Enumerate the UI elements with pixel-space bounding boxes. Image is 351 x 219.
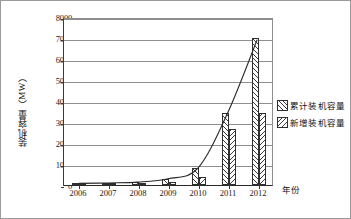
bar-2012-cumulative bbox=[252, 38, 259, 185]
x-tick-label-2007: 2007 bbox=[100, 188, 117, 198]
bar-2010-cumulative bbox=[192, 168, 199, 185]
bar-2007-cumulative bbox=[102, 183, 109, 185]
y-tick-mark bbox=[61, 61, 65, 62]
gridline bbox=[64, 82, 272, 83]
gridline bbox=[64, 103, 272, 104]
chart-figure: 装机容量（MW） 0100020003000400050006000700080… bbox=[0, 0, 351, 219]
plot-area bbox=[63, 18, 273, 186]
y-tick-mark bbox=[61, 103, 65, 104]
bar-2011-new bbox=[229, 129, 236, 185]
y-tick-mark bbox=[61, 166, 65, 167]
bar-2009-cumulative bbox=[162, 179, 169, 185]
x-tick-label-2010: 2010 bbox=[190, 188, 207, 198]
bar-2009-new bbox=[169, 182, 176, 185]
legend-swatch-cumulative-icon bbox=[277, 100, 288, 111]
bar-2006-new bbox=[79, 183, 86, 185]
bar-2011-cumulative bbox=[222, 113, 229, 185]
legend-label-new: 新增装机容量 bbox=[290, 116, 345, 128]
chart-legend: 累计装机容量 新增装机容量 bbox=[277, 99, 350, 133]
gridline bbox=[64, 166, 272, 167]
trend-line bbox=[64, 19, 272, 185]
x-axis-label: 年份 bbox=[282, 183, 300, 195]
bar-2008-new bbox=[139, 183, 146, 185]
x-tick-label-2012: 2012 bbox=[250, 188, 267, 198]
gridline bbox=[64, 124, 272, 125]
legend-item-new: 新增装机容量 bbox=[277, 116, 350, 128]
legend-swatch-new-icon bbox=[277, 117, 288, 128]
gridline bbox=[64, 19, 272, 20]
y-axis-label: 装机容量（MW） bbox=[15, 72, 28, 147]
bar-2006-cumulative bbox=[72, 183, 79, 185]
y-tick-mark bbox=[61, 124, 65, 125]
y-tick-mark bbox=[61, 145, 65, 146]
x-tick-label-2009: 2009 bbox=[160, 188, 177, 198]
bar-2010-new bbox=[199, 177, 206, 185]
y-tick-mark bbox=[61, 187, 65, 188]
y-tick-mark bbox=[61, 19, 65, 20]
y-tick-mark bbox=[61, 82, 65, 83]
legend-item-cumulative: 累计装机容量 bbox=[277, 99, 350, 111]
bar-2012-new bbox=[259, 113, 266, 185]
y-tick-mark bbox=[61, 40, 65, 41]
bar-2008-cumulative bbox=[132, 182, 139, 185]
bar-2007-new bbox=[109, 183, 116, 185]
legend-label-cumulative: 累计装机容量 bbox=[290, 99, 345, 111]
gridline bbox=[64, 61, 272, 62]
x-tick-label-2011: 2011 bbox=[220, 188, 237, 198]
x-tick-label-2006: 2006 bbox=[70, 188, 87, 198]
gridline bbox=[64, 145, 272, 146]
x-tick-label-2008: 2008 bbox=[130, 188, 147, 198]
gridline bbox=[64, 40, 272, 41]
